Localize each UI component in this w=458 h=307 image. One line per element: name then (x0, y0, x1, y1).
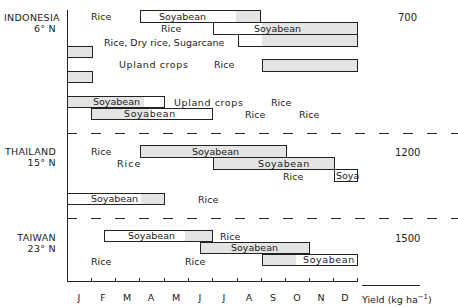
month-label: A (239, 292, 259, 303)
region-name: INDONESIA (4, 12, 56, 23)
month-label: A (141, 292, 161, 303)
crop-label-rice: Rice (271, 97, 291, 108)
crop-label-upland: Upland crops (174, 97, 243, 108)
x-tick (309, 278, 310, 282)
month-label: J (190, 292, 210, 303)
bar-label: Soyabean (258, 159, 310, 169)
bar-label: Soyabean (93, 97, 140, 107)
crop-label-rice: Rice (91, 256, 111, 267)
crop-label-rice: Rice (91, 146, 111, 157)
x-tick (212, 278, 213, 282)
crop-bar (238, 34, 358, 47)
yield-indonesia: 700 (398, 12, 417, 23)
region-latitude: 23° N (4, 243, 56, 254)
crop-bar-soya: Soya (334, 169, 358, 182)
bar-label: Soyabean (192, 147, 239, 157)
stipple-fill (263, 60, 357, 71)
month-label: D (335, 292, 355, 303)
crop-bar (67, 46, 93, 58)
x-tick (357, 278, 358, 282)
bar-label: Soya (336, 171, 359, 181)
crop-bar-soyabean: Soyabean (67, 96, 165, 108)
crop-label-rice: Rice (214, 59, 234, 70)
crop-bar-soyabean: Soyabean (200, 242, 310, 254)
bar-label: Soyabean (124, 109, 176, 119)
x-tick (285, 278, 286, 282)
region-label-indonesia: INDONESIA 6° N (4, 12, 56, 34)
bar-label: Soyabean (231, 243, 278, 253)
yield-axis-label: Yield (kg ha−1) (362, 292, 432, 305)
crop-bar-soyabean: Soyabean (67, 193, 165, 205)
bar-label: Soyabean (128, 231, 175, 241)
x-tick (188, 278, 189, 282)
yield-underline (362, 285, 420, 286)
x-tick (164, 278, 165, 282)
crop-label-rice: Rice (185, 256, 205, 267)
region-label-taiwan: TAIWAN 23° N (4, 232, 56, 254)
x-tick (333, 278, 334, 282)
month-label: O (287, 292, 307, 303)
bar-label: Soyabean (91, 194, 138, 204)
crop-bar (67, 71, 93, 83)
stipple-fill (141, 194, 164, 204)
region-name: TAIWAN (4, 232, 56, 243)
crop-label-rice: Rice (245, 109, 265, 120)
month-label: M (117, 292, 137, 303)
yield-thailand: 1200 (395, 147, 420, 158)
month-label: S (263, 292, 283, 303)
region-label-thailand: THAILAND 15° N (4, 146, 56, 168)
region-latitude: 15° N (4, 157, 56, 168)
x-tick (139, 278, 140, 282)
bar-label: Soyabean (254, 24, 301, 34)
region-latitude: 6° N (4, 23, 56, 34)
crop-label-rice: Rice (198, 194, 218, 205)
crop-label-upland: Upland crops (119, 59, 188, 70)
month-label: F (93, 292, 113, 303)
stipple-fill (185, 231, 212, 241)
crop-label-mixed: Rice, Dry rice, Sugarcane (104, 37, 224, 48)
x-tick (237, 278, 238, 282)
crop-label-rice: Rice (283, 171, 303, 182)
x-tick (115, 278, 116, 282)
crop-bar-soyabean: Soyabean (213, 157, 335, 170)
x-tick (261, 278, 262, 282)
bar-label: Soyabean (303, 255, 355, 265)
crop-bar-soyabean: Soyabean (104, 230, 213, 242)
month-label: J (69, 292, 89, 303)
month-label: N (311, 292, 331, 303)
crop-label-rice: Rice (299, 109, 319, 120)
crop-label-rice: Rice (220, 231, 240, 242)
region-separator (67, 133, 458, 134)
stipple-fill (68, 72, 92, 82)
region-name: THAILAND (4, 146, 56, 157)
month-label: J (214, 292, 234, 303)
stipple-fill (262, 35, 357, 46)
crop-bar (262, 59, 358, 72)
stipple-fill (68, 47, 92, 57)
crop-label-rice: Rice (91, 11, 111, 22)
crop-label-rice: Rice (161, 23, 181, 34)
crop-label-rice: Rice (117, 158, 141, 169)
bar-label: Soyabean (159, 12, 206, 22)
yield-taiwan: 1500 (395, 233, 420, 244)
region-separator (67, 218, 458, 219)
crop-bar-soyabean: Soyabean (262, 254, 358, 266)
month-label: M (166, 292, 186, 303)
stipple-fill (236, 11, 260, 22)
stipple-fill (263, 255, 296, 265)
crop-bar-soyabean: Soyabean (91, 108, 213, 120)
x-tick (91, 278, 92, 282)
